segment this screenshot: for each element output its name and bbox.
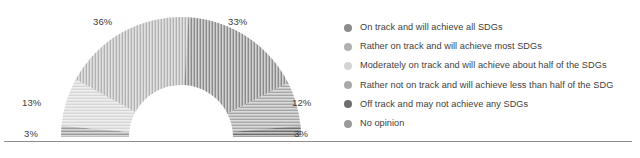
data-label-36: 36% bbox=[93, 17, 112, 27]
data-label-33: 33% bbox=[228, 17, 247, 27]
legend-item-label: Moderately on track and will achieve abo… bbox=[360, 61, 607, 70]
legend-swatch-icon bbox=[344, 62, 352, 70]
data-label-3-right: 3% bbox=[294, 129, 308, 139]
legend-item-label: On track and will achieve all SDGs bbox=[360, 23, 503, 32]
legend-item[interactable]: Rather on track and will achieve most SD… bbox=[344, 37, 640, 56]
chart-figure: 36% 33% 13% 12% 3% 3% On track and will … bbox=[0, 0, 640, 158]
data-label-12: 12% bbox=[292, 98, 311, 108]
legend-item-label: Rather not on track and will achieve les… bbox=[360, 81, 613, 90]
semi-donut-svg bbox=[0, 0, 330, 148]
legend-item-label: Rather on track and will achieve most SD… bbox=[360, 42, 542, 51]
data-label-3-left: 3% bbox=[24, 129, 38, 139]
legend-swatch-icon bbox=[344, 81, 352, 89]
legend-item[interactable]: On track and will achieve all SDGs bbox=[344, 18, 640, 37]
data-label-13: 13% bbox=[22, 98, 41, 108]
baseline-rule bbox=[4, 141, 632, 142]
legend-item-label: No opinion bbox=[360, 119, 404, 128]
legend-item[interactable]: Off track and may not achieve any SDGs bbox=[344, 95, 640, 114]
legend-swatch-icon bbox=[344, 43, 352, 51]
legend-item[interactable]: Moderately on track and will achieve abo… bbox=[344, 56, 640, 75]
chart-legend: On track and will achieve all SDGs Rathe… bbox=[344, 18, 640, 133]
legend-swatch-icon bbox=[344, 120, 352, 128]
semi-donut-chart: 36% 33% 13% 12% 3% 3% bbox=[0, 0, 330, 148]
legend-item[interactable]: Rather not on track and will achieve les… bbox=[344, 76, 640, 95]
slice-group bbox=[61, 17, 301, 137]
legend-swatch-icon bbox=[344, 24, 352, 32]
legend-swatch-icon bbox=[344, 100, 352, 108]
legend-item-label: Off track and may not achieve any SDGs bbox=[360, 100, 528, 109]
legend-item[interactable]: No opinion bbox=[344, 114, 640, 133]
